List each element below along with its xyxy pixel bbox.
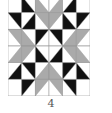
quilt-cell xyxy=(8,29,22,46)
quilt-cell xyxy=(63,46,77,63)
quilt-cell xyxy=(8,0,22,13)
quilt-cell xyxy=(22,63,36,80)
quilt-cell xyxy=(35,13,49,30)
quilt-block-pattern xyxy=(8,0,90,96)
quilt-cell xyxy=(49,46,63,63)
figure-label: 4 xyxy=(0,97,102,110)
quilt-cell xyxy=(76,0,90,13)
quilt-cell xyxy=(35,79,49,96)
quilt-cell xyxy=(63,13,77,30)
quilt-cell xyxy=(49,29,63,46)
quilt-cell xyxy=(35,46,49,63)
quilt-cell xyxy=(49,13,63,30)
quilt-cell xyxy=(22,0,36,13)
quilt-cell xyxy=(22,29,36,46)
quilt-cell xyxy=(8,46,22,63)
quilt-cell xyxy=(63,29,77,46)
quilt-cell xyxy=(76,29,90,46)
quilt-cell xyxy=(76,13,90,30)
quilt-cell xyxy=(49,0,63,13)
quilt-cell xyxy=(76,63,90,80)
quilt-cell xyxy=(35,0,49,13)
quilt-cell xyxy=(76,46,90,63)
quilt-cell xyxy=(35,63,49,80)
quilt-cell xyxy=(8,79,22,96)
quilt-cell xyxy=(63,79,77,96)
quilt-cell xyxy=(63,63,77,80)
quilt-cell xyxy=(22,79,36,96)
quilt-cell xyxy=(22,13,36,30)
quilt-cell xyxy=(49,63,63,80)
quilt-cell xyxy=(8,13,22,30)
quilt-cell xyxy=(8,63,22,80)
quilt-cell xyxy=(49,79,63,96)
quilt-cell xyxy=(76,79,90,96)
quilt-cell xyxy=(22,46,36,63)
quilt-cell xyxy=(63,0,77,13)
quilt-cell xyxy=(35,29,49,46)
